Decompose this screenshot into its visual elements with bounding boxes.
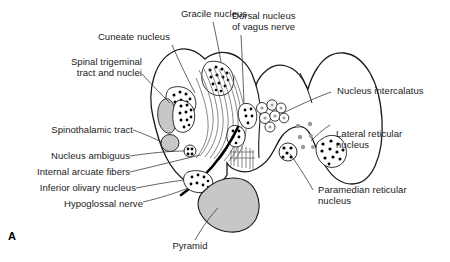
- label-lateral-reticular-line2: nucleus: [336, 139, 446, 150]
- label-dorsal-vagus-line1: Dorsal nucleus: [232, 10, 342, 21]
- label-spinothalamic-tract: Spinothalamic tract: [8, 124, 133, 135]
- label-lateral-reticular-line1: Lateral reticular: [336, 128, 446, 139]
- figure-panel: Gracile nucleus Cuneate nucleus Spinal t…: [0, 0, 450, 262]
- label-dorsal-vagus-line2: of vagus nerve: [232, 21, 342, 32]
- label-nucleus-intercalatus: Nucleus intercalatus: [337, 85, 449, 96]
- label-cuneate-nucleus: Cuneate nucleus: [30, 31, 170, 42]
- label-spinal-trigeminal-line2: tract and nuclei: [20, 67, 142, 78]
- label-spinal-trigeminal-line1: Spinal trigeminal: [20, 56, 142, 67]
- nucleus-ambiguus-outline: [184, 145, 196, 157]
- spinothalamic-tract-oval: [161, 135, 179, 152]
- label-paramedian-reticular-line2: nucleus: [318, 195, 448, 206]
- label-nucleus-ambiguus: Nucleus ambiguus: [8, 150, 130, 161]
- label-hypoglossal-nerve: Hypoglossal nerve: [18, 198, 143, 209]
- panel-letter: A: [8, 230, 16, 242]
- label-internal-arcuate-fibers: Internal arcuate fibers: [4, 166, 130, 177]
- label-paramedian-reticular-line1: Paramedian reticular: [318, 184, 448, 195]
- leader-inferior-olivary-nucleus: [136, 180, 184, 188]
- leader-paramedian-reticular-nucleus: [290, 154, 313, 190]
- label-pyramid: Pyramid: [140, 240, 240, 251]
- label-inferior-olivary-nucleus: Inferior olivary nucleus: [4, 182, 136, 193]
